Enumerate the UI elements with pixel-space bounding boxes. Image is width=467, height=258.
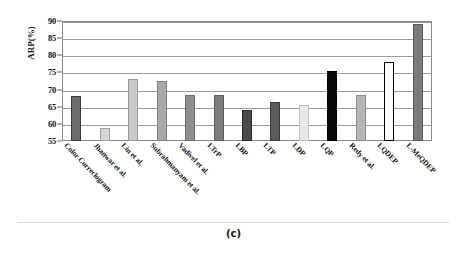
y-axis-tick-label: 90 bbox=[48, 16, 56, 26]
x-axis-tick-label: Redy et al. bbox=[347, 141, 377, 171]
bar bbox=[413, 24, 423, 141]
bar bbox=[214, 95, 224, 141]
figure-caption: (c) bbox=[0, 228, 467, 239]
caption-divider bbox=[18, 222, 449, 223]
x-axis-tick-label: Lin et al. bbox=[120, 141, 146, 167]
x-axis-tick-label: L-MeQDEP bbox=[404, 141, 437, 175]
x-axis-tick-label: Subrahmanyam et al. bbox=[148, 141, 202, 196]
x-axis-tick-label: LQDEP bbox=[376, 141, 400, 166]
bar bbox=[356, 95, 366, 141]
y-axis-tick-label: 70 bbox=[48, 85, 56, 95]
y-axis-ticks: 9085807570656055 bbox=[30, 21, 62, 141]
y-axis-tick-label: 75 bbox=[48, 67, 56, 77]
x-axis-tick-label: LTP bbox=[262, 141, 278, 157]
bar bbox=[157, 81, 167, 141]
bar bbox=[384, 62, 394, 141]
bar bbox=[299, 105, 309, 141]
y-axis-tick-label: 60 bbox=[48, 119, 56, 129]
x-axis-labels: Color CorreclogramJhanwar et al.Lin et a… bbox=[0, 141, 467, 211]
y-axis-tick-label: 65 bbox=[48, 102, 56, 112]
x-axis-tick-label: LTrP bbox=[205, 141, 223, 159]
y-axis-tick-label: 80 bbox=[48, 50, 56, 60]
bar bbox=[242, 110, 252, 141]
bar bbox=[128, 79, 138, 141]
bar bbox=[185, 95, 195, 141]
x-axis-tick-label: LDP bbox=[290, 141, 307, 158]
x-axis-tick-label: LQP bbox=[319, 141, 336, 158]
bar bbox=[100, 128, 110, 141]
bar bbox=[71, 96, 81, 141]
bar-series bbox=[62, 21, 432, 141]
bar bbox=[327, 71, 337, 141]
y-axis-tick-label: 85 bbox=[48, 33, 56, 43]
figure-container: ARP(%) 9085807570656055 Color Correclogr… bbox=[0, 0, 467, 258]
x-axis-tick-label: LBP bbox=[234, 141, 251, 158]
bar bbox=[270, 102, 280, 141]
